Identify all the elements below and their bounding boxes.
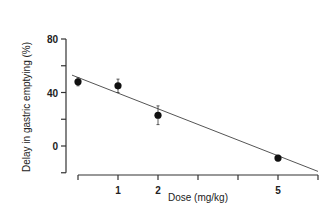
data-point	[114, 79, 121, 92]
data-points	[74, 78, 281, 162]
point-marker	[154, 112, 161, 119]
x-tick-label: 1	[115, 185, 121, 196]
point-marker	[114, 82, 121, 89]
x-tick-label: 2	[155, 185, 161, 196]
x-tick-label: 5	[275, 185, 281, 196]
y-tick-label: 80	[47, 34, 59, 45]
axes: 04080125	[47, 34, 318, 196]
y-axis-title: Delay in gastric emptying (%)	[21, 42, 32, 172]
data-point	[154, 106, 161, 125]
x-axis-title: Dose (mg/kg)	[168, 192, 228, 203]
y-tick-label: 0	[52, 141, 58, 152]
data-point	[274, 154, 281, 161]
chart: 04080125 Delay in gastric emptying (%) D…	[0, 0, 336, 221]
point-marker	[74, 78, 81, 85]
data-point	[74, 78, 81, 86]
point-marker	[274, 154, 281, 161]
y-tick-label: 40	[47, 88, 59, 99]
